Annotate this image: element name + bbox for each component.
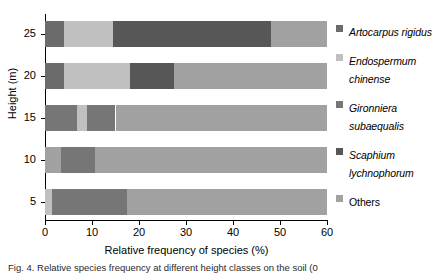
bar-row bbox=[45, 189, 327, 215]
y-axis-tick bbox=[41, 160, 45, 161]
bar-segment bbox=[127, 189, 327, 215]
x-axis-tick bbox=[45, 221, 46, 225]
bar-segment bbox=[61, 147, 95, 173]
bar-segment bbox=[130, 63, 175, 89]
legend-swatch-icon bbox=[336, 101, 343, 108]
y-axis-tick bbox=[41, 202, 45, 203]
figure-caption: Fig. 4. Relative species frequency at di… bbox=[8, 262, 432, 273]
y-axis-tick-label: 5 bbox=[10, 196, 36, 207]
legend-item-label: Scaphium lychnophorum bbox=[349, 149, 414, 179]
bar-segment bbox=[174, 63, 327, 89]
bar-segment bbox=[116, 105, 328, 131]
x-axis-tick-label: 30 bbox=[171, 227, 201, 238]
x-axis-tick bbox=[186, 221, 187, 225]
x-axis-tick-label: 40 bbox=[218, 227, 248, 238]
legend-swatch-icon bbox=[336, 148, 343, 155]
legend-swatch-icon bbox=[336, 25, 343, 32]
legend: Artocarpus rigidusEndospermum chinenseGi… bbox=[336, 22, 437, 221]
bar-segment bbox=[64, 21, 113, 47]
x-axis-tick-label: 0 bbox=[30, 227, 60, 238]
y-axis-label: Height (m) bbox=[7, 58, 18, 130]
x-axis-tick bbox=[327, 221, 328, 225]
legend-item[interactable]: Endospermum chinense bbox=[336, 51, 437, 87]
bar-segment bbox=[95, 147, 327, 173]
x-axis-tick bbox=[233, 221, 234, 225]
bar-segment bbox=[64, 63, 130, 89]
bar-row bbox=[45, 147, 327, 173]
x-axis-tick-label: 60 bbox=[312, 227, 342, 238]
bar-row bbox=[45, 63, 327, 89]
bar-segment bbox=[45, 189, 52, 215]
bar-row bbox=[45, 105, 327, 131]
legend-item[interactable]: Scaphium lychnophorum bbox=[336, 145, 437, 181]
legend-item-label: Artocarpus rigidus bbox=[349, 26, 432, 38]
bar-segment bbox=[45, 105, 77, 131]
legend-item[interactable]: Gironniera subaequalis bbox=[336, 98, 437, 134]
legend-item-label: Endospermum chinense bbox=[349, 55, 416, 85]
legend-swatch-icon bbox=[336, 195, 343, 202]
legend-swatch-icon bbox=[336, 54, 343, 61]
bar-segment bbox=[77, 105, 87, 131]
x-axis-tick-label: 10 bbox=[77, 227, 107, 238]
legend-item-label: Gironniera subaequalis bbox=[349, 102, 404, 132]
bar-row bbox=[45, 21, 327, 47]
x-axis-label: Relative frequency of species (%) bbox=[45, 244, 328, 256]
y-axis-tick bbox=[41, 76, 45, 77]
bar-segment bbox=[52, 189, 127, 215]
x-axis-tick bbox=[280, 221, 281, 225]
x-axis-tick bbox=[92, 221, 93, 225]
legend-item[interactable]: Artocarpus rigidus bbox=[336, 22, 437, 40]
bar-segment bbox=[45, 147, 61, 173]
x-axis-tick-label: 50 bbox=[265, 227, 295, 238]
bar-segment bbox=[271, 21, 327, 47]
y-axis-tick-label: 25 bbox=[10, 28, 36, 39]
bar-segment bbox=[87, 105, 115, 131]
x-axis-tick bbox=[139, 221, 140, 225]
y-axis-tick bbox=[41, 118, 45, 119]
y-axis-tick bbox=[41, 34, 45, 35]
figure-container: 252015105 0102030405060 Height (m) Relat… bbox=[0, 0, 437, 273]
bar-segment bbox=[45, 63, 64, 89]
legend-item[interactable]: Others bbox=[336, 192, 437, 210]
y-axis-tick-label: 10 bbox=[10, 154, 36, 165]
x-axis-tick-label: 20 bbox=[124, 227, 154, 238]
legend-item-label: Others bbox=[349, 196, 380, 208]
bar-segment bbox=[113, 21, 270, 47]
bar-segment bbox=[45, 21, 64, 47]
